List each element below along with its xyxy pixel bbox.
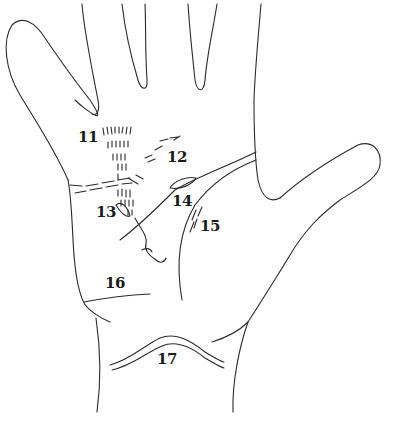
label-14: 14 <box>172 194 192 209</box>
wrist-left-edge <box>96 318 100 412</box>
dashed-line-horizontal <box>70 175 143 193</box>
branch-line-13 <box>135 218 166 262</box>
middle-finger-outline <box>188 4 217 90</box>
hand-outline-drawing <box>0 0 398 423</box>
little-finger-inner <box>82 4 99 114</box>
label-15: 15 <box>200 219 220 234</box>
label-16: 16 <box>105 276 125 291</box>
wrist-right-edge <box>233 322 248 412</box>
label-11: 11 <box>78 130 98 145</box>
label-13: 13 <box>96 205 116 220</box>
line-16 <box>84 294 150 302</box>
thumb-outline <box>212 144 380 342</box>
little-finger-outline <box>6 20 98 180</box>
island-marking-14 <box>170 177 196 188</box>
label-12: 12 <box>167 150 187 165</box>
label-17: 17 <box>157 352 177 367</box>
index-finger-outline <box>254 4 280 200</box>
ring-finger-outline <box>122 4 147 88</box>
hand-diagram: 11 12 13 14 15 16 17 <box>0 0 398 423</box>
hatching-11 <box>103 127 131 180</box>
